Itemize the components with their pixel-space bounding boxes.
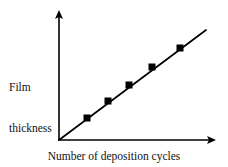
data-point-marker	[105, 98, 112, 105]
y-axis-label: Film thickness	[9, 54, 52, 163]
figure-container: Film thickness Number of deposition cycl…	[0, 0, 228, 167]
x-axis-label: Number of deposition cycles	[0, 150, 228, 164]
y-axis-label-line-1: Film	[9, 81, 52, 95]
data-point-marker	[177, 45, 184, 52]
y-axis-label-line-2: thickness	[9, 122, 52, 136]
data-point-marker	[149, 64, 156, 71]
data-point-marker	[126, 82, 133, 89]
data-point-marker	[84, 115, 91, 122]
